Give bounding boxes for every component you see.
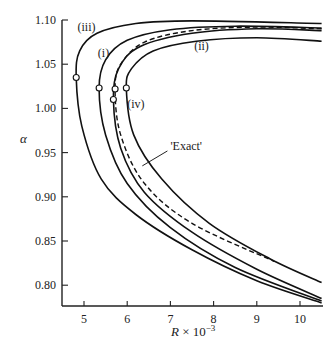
nose-marker-icon	[73, 74, 79, 80]
y-ticks: 0.800.850.900.951.001.051.10	[35, 13, 68, 292]
curve-exact	[115, 27, 322, 261]
y-tick-label: 1.05	[35, 57, 56, 71]
y-tick-label: 0.80	[35, 278, 56, 292]
y-axis-title: α	[20, 131, 28, 146]
x-tick-label: 5	[81, 312, 87, 326]
curve-iii	[76, 21, 321, 303]
y-tick-label: 1.00	[35, 101, 56, 115]
nose-marker-icon	[96, 85, 102, 91]
x-ticks: 5678910	[81, 301, 306, 326]
x-tick-label: 9	[254, 312, 260, 326]
curve-label: (i)	[98, 46, 109, 60]
curves-group	[76, 21, 321, 303]
axes-group	[62, 20, 323, 306]
curve-label: 'Exact'	[170, 139, 202, 153]
x-axis-title: R × 10−3	[170, 323, 216, 339]
markers-group	[73, 74, 129, 102]
nose-marker-icon	[110, 97, 116, 103]
curve-label: (iii)	[78, 20, 96, 34]
curve-label: (iv)	[127, 97, 144, 111]
x-tick-label: 10	[294, 312, 306, 326]
curve-label: (ii)	[194, 39, 209, 53]
y-tick-label: 0.85	[35, 234, 56, 248]
curve-iv	[126, 38, 321, 283]
y-tick-label: 0.95	[35, 146, 56, 160]
y-tick-label: 1.10	[35, 13, 56, 27]
nose-marker-icon	[123, 85, 129, 91]
nose-marker-icon	[112, 86, 118, 92]
x-tick-label: 6	[124, 312, 130, 326]
chart: 5678910 0.800.850.900.951.001.051.10 (ii…	[0, 0, 334, 349]
y-tick-label: 0.90	[35, 190, 56, 204]
